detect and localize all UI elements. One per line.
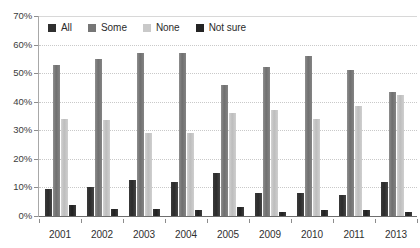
x-tick-cell: 2004 [165,219,207,245]
x-tick-cell: 2002 [81,219,123,245]
bar-none-2004 [187,133,194,216]
legend-label: Some [101,22,127,33]
legend-swatch-icon [143,24,151,32]
bar-not-sure-2005 [237,207,244,216]
y-tick-label: 20% [0,154,32,164]
bar-not-sure-2003 [153,209,160,216]
bar-some-2003 [137,53,144,216]
bar-some-2005 [221,85,228,216]
legend-item-some[interactable]: Some [88,22,127,33]
bar-none-2003 [145,133,152,216]
x-tick-label: 2010 [291,229,333,240]
bar-all-2009 [255,193,262,216]
plot-area [39,16,417,216]
y-tick-label: 70% [0,11,32,21]
bar-none-2005 [229,113,236,216]
bar-group-2011 [333,16,375,216]
x-tick-label: 2013 [375,229,417,240]
x-axis: 200120022003200420052009201020112013 [39,219,417,245]
x-tick-cell: 2010 [291,219,333,245]
bar-some-2002 [95,59,102,216]
x-tick-cell: 2005 [207,219,249,245]
bar-group-2010 [291,16,333,216]
x-tick-cell: 2011 [333,219,375,245]
x-tick-cell: 2009 [249,219,291,245]
x-tick-label: 2009 [249,229,291,240]
legend-label: All [61,22,72,33]
bar-chart: 70%60%50%40%30%20%10%0% 2001200220032004… [0,0,420,248]
bar-not-sure-2002 [111,209,118,216]
x-tick-mark [39,219,40,223]
x-tick-mark [207,219,208,223]
legend-label: None [156,22,180,33]
bar-all-2004 [171,182,178,216]
legend-item-not-sure[interactable]: Not sure [196,22,246,33]
bar-all-2013 [381,182,388,216]
x-tick-mark [123,219,124,223]
x-tick-label: 2005 [207,229,249,240]
y-tick-label: 30% [0,126,32,136]
legend-swatch-icon [48,24,56,32]
bar-none-2013 [397,95,404,216]
bar-some-2010 [305,56,312,216]
bar-all-2011 [339,195,346,216]
legend-item-none[interactable]: None [143,22,180,33]
bar-group-2009 [249,16,291,216]
x-tick-mark [417,219,418,223]
x-tick-cell: 2001 [39,219,81,245]
bar-some-2004 [179,53,186,216]
bar-not-sure-2001 [69,205,76,216]
bar-none-2001 [61,119,68,216]
bar-group-2002 [81,16,123,216]
bar-none-2010 [313,119,320,216]
x-tick-mark [249,219,250,223]
x-tick-label: 2004 [165,229,207,240]
x-tick-mark [333,219,334,223]
bar-all-2003 [129,180,136,216]
bar-groups [39,16,417,216]
bar-some-2009 [263,67,270,216]
x-tick-mark [375,219,376,223]
y-tick-label: 50% [0,68,32,78]
y-axis: 70%60%50%40%30%20%10%0% [0,0,32,248]
bar-group-2001 [39,16,81,216]
bar-none-2009 [271,110,278,216]
bar-some-2013 [389,92,396,216]
y-tick-label: 40% [0,97,32,107]
bar-all-2010 [297,193,304,216]
bar-all-2001 [45,189,52,216]
legend-swatch-icon [88,24,96,32]
x-tick-label: 2003 [123,229,165,240]
x-tick-label: 2001 [39,229,81,240]
bar-group-2013 [375,16,417,216]
y-tick-label: 10% [0,183,32,193]
legend-item-all[interactable]: All [48,22,72,33]
x-tick-label: 2002 [81,229,123,240]
y-tick-label: 0% [0,211,32,221]
chart-legend: AllSomeNoneNot sure [48,22,246,33]
x-tick-mark [81,219,82,223]
bar-some-2011 [347,70,354,216]
x-axis-line [39,216,417,217]
bar-group-2003 [123,16,165,216]
x-tick-mark [291,219,292,223]
y-tick-label: 60% [0,40,32,50]
x-tick-mark [165,219,166,223]
bar-all-2005 [213,173,220,216]
x-tick-cell: 2003 [123,219,165,245]
bar-all-2002 [87,187,94,216]
x-tick-cell: 2013 [375,219,417,245]
legend-swatch-icon [196,24,204,32]
x-tick-label: 2011 [333,229,375,240]
bar-none-2011 [355,106,362,216]
bar-none-2002 [103,120,110,216]
bar-some-2001 [53,65,60,216]
bar-group-2005 [207,16,249,216]
legend-label: Not sure [209,22,246,33]
bar-group-2004 [165,16,207,216]
